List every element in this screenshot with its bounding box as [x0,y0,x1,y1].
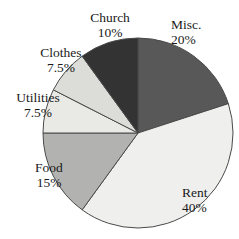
pie-label-clothes: Clothes 7.5% [28,45,94,75]
pie-label-misc-percent: 20% [171,32,227,47]
pie-label-food-percent: 15% [20,175,78,190]
pie-label-misc: Misc. 20% [171,17,227,47]
pie-label-utilities: Utilities 7.5% [4,90,72,120]
pie-label-food: Food 15% [20,160,78,190]
pie-label-food-name: Food [20,160,78,175]
pie-label-clothes-percent: 7.5% [28,60,94,75]
pie-label-church-percent: 10% [78,25,142,40]
pie-label-misc-name: Misc. [171,17,227,32]
pie-label-utilities-name: Utilities [4,90,72,105]
pie-label-rent-percent: 40% [182,200,234,215]
pie-chart-figure: Church 10% Misc. 20% Clothes 7.5% Utilit… [0,0,239,239]
pie-label-rent-name: Rent [182,185,234,200]
pie-label-utilities-percent: 7.5% [4,105,72,120]
pie-label-clothes-name: Clothes [28,45,94,60]
pie-label-church: Church 10% [78,10,142,40]
pie-label-church-name: Church [78,10,142,25]
pie-label-rent: Rent 40% [182,185,234,215]
